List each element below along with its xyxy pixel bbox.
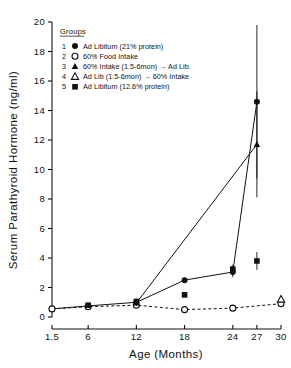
legend-number-2: 2 [62,52,66,61]
x-tick-label-18: 18 [179,331,190,342]
y-tick-label-2: 2 [39,282,45,293]
data-point-5 [230,266,236,272]
legend-title: Groups [60,27,86,36]
legend-marker-3 [72,63,79,69]
legend-label-2: 60% Food Intake [83,52,138,61]
y-tick-label-10: 10 [34,164,45,175]
legend-marker-5 [72,84,78,90]
data-point-5 [182,292,188,298]
series-line-3 [136,144,257,303]
y-tick-label-16: 16 [34,75,45,86]
x-axis-title: Age (Months) [129,348,203,360]
legend-marker-1 [72,43,78,49]
x-tick-label-30: 30 [275,331,286,342]
data-point-3 [254,141,261,147]
chart-canvas: 024681012141618201.561218242730Age (Mont… [0,0,291,368]
legend-number-5: 5 [62,82,66,91]
y-axis-title: Serum Parathyroid Hormone (ng/ml) [7,71,19,270]
x-tick-label-12: 12 [131,331,142,342]
data-point-1 [182,277,188,283]
data-point-2 [49,306,55,312]
data-point-4 [277,296,284,303]
x-tick-label-27: 27 [251,331,262,342]
legend-label-5: Ad Libitum (12.6% protein) [83,82,169,91]
y-tick-label-8: 8 [39,193,45,204]
legend-label-4: Ad Lib (1.5-6mon) → 60% Intake [83,72,189,81]
y-tick-label-4: 4 [39,252,45,263]
x-tick-label-1.5: 1.5 [45,331,59,342]
legend-label-1: Ad Libitum (21% protein) [83,42,163,51]
x-tick-label-24: 24 [227,331,238,342]
legend-number-4: 4 [62,72,66,81]
x-tick-label-6: 6 [85,331,91,342]
y-tick-label-6: 6 [39,223,45,234]
data-point-2 [230,305,236,311]
data-point-5 [134,299,140,305]
legend-marker-4 [71,73,78,80]
data-point-5 [254,258,260,264]
y-tick-label-0: 0 [39,311,45,322]
parathyroid-hormone-chart: 024681012141618201.561218242730Age (Mont… [0,0,291,368]
data-point-2 [182,307,188,313]
y-tick-label-18: 18 [34,46,45,57]
legend-marker-2 [72,53,78,59]
legend-label-3: 60% Intake (1.5-6mon) → Ad Lib. [83,62,191,71]
legend-number-3: 3 [62,62,66,71]
series-line-1 [52,102,257,309]
legend-number-1: 1 [62,42,66,51]
data-point-5 [85,302,91,308]
y-tick-label-20: 20 [34,16,45,27]
y-tick-label-14: 14 [34,105,45,116]
y-tick-label-12: 12 [34,134,45,145]
